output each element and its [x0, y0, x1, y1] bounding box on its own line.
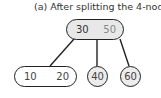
leaf-key-60: 60: [124, 71, 137, 82]
edge-root-to-60: [120, 39, 129, 66]
leaf-node-60: 60: [120, 66, 141, 87]
root-key-50: 50: [103, 24, 116, 35]
leaf-key-20: 20: [56, 71, 69, 82]
leaf-node-10-20: 10 20: [14, 66, 77, 87]
root-node-3-node: 30 50: [66, 19, 124, 40]
root-key-30: 30: [76, 24, 89, 35]
leaf-node-40: 40: [87, 66, 108, 87]
leaf-key-40: 40: [91, 71, 104, 82]
edge-root-to-10-20: [50, 39, 74, 66]
leaf-key-10: 10: [24, 71, 37, 82]
